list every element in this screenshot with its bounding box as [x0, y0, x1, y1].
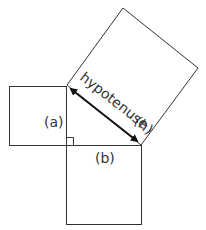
label-a: (a) — [44, 114, 64, 130]
pythagorean-diagram: (a) (b) hypotenuse (h) — [0, 0, 206, 230]
right-angle-marker — [67, 138, 74, 146]
label-b: (b) — [95, 150, 115, 166]
